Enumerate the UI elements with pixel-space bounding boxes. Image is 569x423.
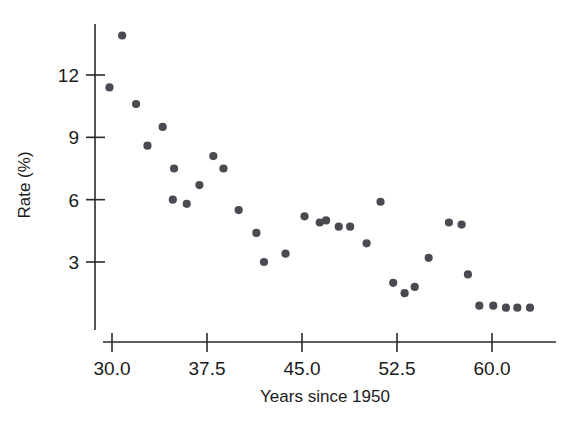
scatter-plot-figure: 36912 30.037.545.052.560.0 Rate (%) Year… [0, 0, 569, 423]
data-point [105, 83, 113, 91]
plot-canvas: 36912 30.037.545.052.560.0 Rate (%) Year… [0, 0, 569, 423]
data-points-layer [105, 31, 534, 311]
x-tick-label: 52.5 [379, 358, 416, 379]
y-axis-ticks: 36912 [58, 65, 105, 273]
data-point [322, 216, 330, 224]
data-point [513, 304, 521, 312]
data-point [401, 289, 409, 297]
data-point [363, 239, 371, 247]
x-tick-label: 60.0 [474, 358, 511, 379]
data-point [475, 302, 483, 310]
data-point [159, 123, 167, 131]
data-point [260, 258, 268, 266]
data-point [335, 223, 343, 231]
data-point [195, 181, 203, 189]
y-tick-label: 12 [58, 65, 79, 86]
data-point [526, 304, 534, 312]
data-point [411, 283, 419, 291]
y-tick-label: 9 [68, 127, 79, 148]
data-point [183, 200, 191, 208]
data-point [169, 196, 177, 204]
data-point [252, 229, 260, 237]
x-tick-label: 45.0 [284, 358, 321, 379]
x-tick-label: 30.0 [94, 358, 131, 379]
y-tick-label: 3 [68, 252, 79, 273]
data-point [219, 164, 227, 172]
data-point [300, 212, 308, 220]
y-tick-label: 6 [68, 190, 79, 211]
data-point [132, 100, 140, 108]
data-point [281, 250, 289, 258]
data-point [502, 304, 510, 312]
data-point [235, 206, 243, 214]
data-point [458, 221, 466, 229]
data-point [143, 142, 151, 150]
data-point [209, 152, 217, 160]
data-point [346, 223, 354, 231]
data-point [425, 254, 433, 262]
data-point [118, 31, 126, 39]
x-axis-ticks: 30.037.545.052.560.0 [94, 333, 511, 379]
data-point [489, 302, 497, 310]
data-point [170, 164, 178, 172]
data-point [464, 270, 472, 278]
x-axis-title: Years since 1950 [260, 387, 390, 406]
data-point [376, 198, 384, 206]
data-point [389, 279, 397, 287]
x-tick-label: 37.5 [189, 358, 226, 379]
data-point [445, 218, 453, 226]
y-axis-title: Rate (%) [15, 151, 34, 218]
